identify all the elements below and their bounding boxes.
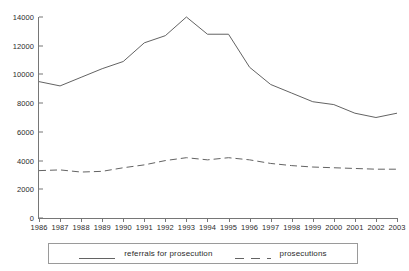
- x-axis-tick-mark: [376, 218, 377, 222]
- y-axis-tick-label: 14000: [13, 13, 39, 22]
- plot-area: 02000400060008000100001200014000 1986198…: [38, 17, 397, 219]
- x-axis-tick-label: 1993: [178, 223, 195, 232]
- y-axis-tick-label: 10000: [13, 70, 39, 79]
- series-lines: [39, 17, 397, 218]
- legend-label: prosecutions: [280, 249, 327, 258]
- x-axis-tick-label: 1998: [283, 223, 300, 232]
- x-axis-tick-mark: [334, 218, 335, 222]
- series-line-referrals-for-prosecution: [39, 17, 397, 118]
- y-axis-tick-label: 12000: [13, 41, 39, 50]
- x-axis-tick-label: 2000: [325, 223, 342, 232]
- x-axis-tick-mark: [250, 218, 251, 222]
- x-axis-tick-mark: [313, 218, 314, 222]
- y-axis-tick-label: 0: [30, 214, 39, 223]
- x-axis-tick-label: 1994: [199, 223, 216, 232]
- x-axis-tick-mark: [186, 218, 187, 222]
- x-axis-tick-label: 1987: [52, 223, 69, 232]
- x-axis-tick-label: 2002: [367, 223, 384, 232]
- x-axis-tick-label: 1996: [241, 223, 258, 232]
- y-axis-tick-label: 2000: [17, 185, 39, 194]
- x-axis-tick-label: 2003: [388, 223, 405, 232]
- x-axis-tick-mark: [271, 218, 272, 222]
- x-axis-tick-mark: [39, 218, 40, 222]
- line-chart: 02000400060008000100001200014000 1986198…: [0, 0, 409, 271]
- x-axis-tick-mark: [165, 218, 166, 222]
- x-axis-tick-mark: [144, 218, 145, 222]
- chart-legend: referrals for prosecutionprosecutions: [48, 243, 358, 264]
- x-axis-tick-label: 2001: [346, 223, 363, 232]
- x-axis-tick-label: 1997: [262, 223, 279, 232]
- x-axis-tick-mark: [397, 218, 398, 222]
- y-axis-tick-label: 4000: [17, 156, 39, 165]
- x-axis-tick-label: 1991: [136, 223, 153, 232]
- legend-entry: prosecutions: [235, 249, 327, 258]
- x-axis-tick-label: 1995: [220, 223, 237, 232]
- x-axis-tick-mark: [207, 218, 208, 222]
- x-axis-tick-mark: [102, 218, 103, 222]
- series-line-prosecutions: [39, 158, 397, 172]
- legend-solid-line-icon: [79, 249, 115, 258]
- x-axis-tick-mark: [292, 218, 293, 222]
- x-axis-tick-label: 1992: [157, 223, 174, 232]
- x-axis-tick-mark: [81, 218, 82, 222]
- y-axis-tick-label: 8000: [17, 99, 39, 108]
- x-axis-tick-label: 1999: [304, 223, 321, 232]
- x-axis-tick-mark: [123, 218, 124, 222]
- legend-label: referrals for prosecution: [124, 249, 212, 258]
- y-axis-tick-label: 6000: [17, 127, 39, 136]
- x-axis-tick-mark: [229, 218, 230, 222]
- x-axis-tick-label: 1988: [73, 223, 90, 232]
- x-axis-tick-label: 1989: [94, 223, 111, 232]
- x-axis-tick-mark: [355, 218, 356, 222]
- x-axis-tick-label: 1986: [30, 223, 47, 232]
- legend-dashed-line-icon: [235, 249, 271, 258]
- x-axis-tick-label: 1990: [115, 223, 132, 232]
- x-axis-tick-mark: [60, 218, 61, 222]
- legend-entry: referrals for prosecution: [79, 249, 212, 258]
